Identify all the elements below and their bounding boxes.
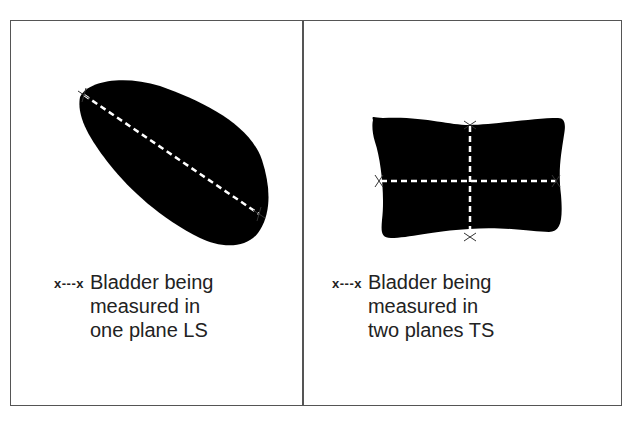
legend-ts-line-1: Bladder being bbox=[368, 270, 494, 294]
legend-ts-text: Bladder being measured in two planes TS bbox=[368, 270, 494, 342]
legend-key-symbol: x---x bbox=[332, 276, 362, 291]
bladder-ts-diagram bbox=[303, 20, 623, 406]
panel-transverse: x---x Bladder being measured in two plan… bbox=[303, 20, 623, 406]
legend-ls-line-3: one plane LS bbox=[90, 318, 213, 342]
legend-ls: x---x Bladder being measured in one plan… bbox=[54, 270, 213, 342]
panel-longitudinal: x---x Bladder being measured in one plan… bbox=[10, 20, 302, 406]
legend-key-symbol: x---x bbox=[54, 276, 84, 291]
legend-ts-line-2: measured in bbox=[368, 294, 494, 318]
legend-ts-line-3: two planes TS bbox=[368, 318, 494, 342]
legend-ls-text: Bladder being measured in one plane LS bbox=[90, 270, 213, 342]
bladder-ls-diagram bbox=[10, 20, 302, 406]
legend-ts: x---x Bladder being measured in two plan… bbox=[332, 270, 494, 342]
bladder-ls-shape bbox=[79, 80, 268, 245]
legend-ls-line-2: measured in bbox=[90, 294, 213, 318]
bladder-ts-shape bbox=[372, 117, 565, 238]
ts-measure-end-bottom-icon bbox=[464, 233, 476, 241]
legend-ls-line-1: Bladder being bbox=[90, 270, 213, 294]
